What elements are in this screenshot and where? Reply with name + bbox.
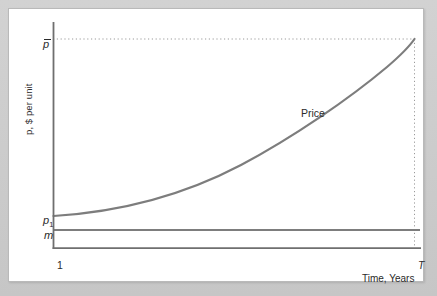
price-path-chart — [9, 9, 423, 281]
x-axis-label: Time, Years — [362, 274, 414, 284]
y-tick-label-m: m — [44, 230, 53, 241]
y-axis-label-text: p, $ per unit — [23, 84, 34, 135]
y-tick-label-p-bar-text: p — [43, 38, 49, 50]
y-tick-label-p-bar: p — [43, 39, 51, 50]
y-tick-label-p-one-subscript: 1 — [49, 220, 53, 229]
price-curve-label: Price — [301, 108, 325, 119]
y-axis-label: p, $ per unit — [23, 39, 37, 139]
y-tick-label-p-one: p1 — [43, 215, 53, 229]
figure-panel: p, $ per unit p p1 m 1 T Price Time, Yea… — [8, 8, 424, 282]
x-tick-label-end: T — [418, 260, 424, 271]
price-curve — [54, 39, 415, 216]
x-tick-label-start: 1 — [57, 260, 63, 271]
